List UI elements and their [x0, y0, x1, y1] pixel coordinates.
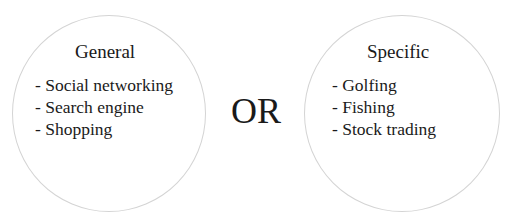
specific-list: - Golfing - Fishing - Stock trading — [332, 74, 436, 140]
general-title: General — [75, 41, 135, 63]
specific-title: Specific — [367, 41, 429, 63]
list-item: - Search engine — [35, 96, 173, 118]
list-item: - Stock trading — [332, 118, 436, 140]
general-list: - Social networking - Search engine - Sh… — [35, 74, 173, 140]
list-item: - Golfing — [332, 74, 436, 96]
list-item: - Fishing — [332, 96, 436, 118]
list-item: - Social networking — [35, 74, 173, 96]
list-item: - Shopping — [35, 118, 173, 140]
or-connector-label: OR — [231, 90, 281, 132]
